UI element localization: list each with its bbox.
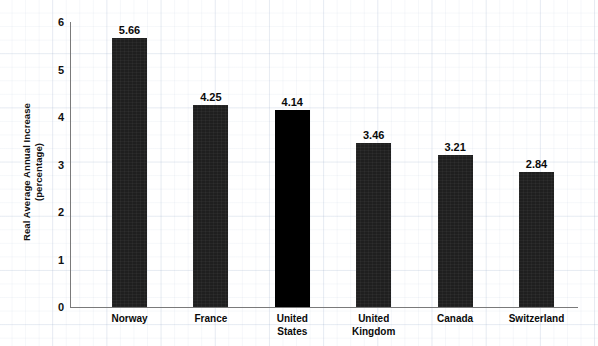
x-label-norway: Norway bbox=[85, 312, 175, 325]
bar-value-france: 4.25 bbox=[166, 91, 256, 103]
bar-value-united-states: 4.14 bbox=[247, 96, 337, 108]
bar-chart-plot-area: 6 5 4 3 2 1 0 Real Average Annual Increa… bbox=[0, 0, 598, 346]
bar-switzerland[interactable] bbox=[519, 172, 554, 307]
y-tick-1: 1 bbox=[46, 255, 64, 265]
bar-canada[interactable] bbox=[438, 155, 473, 307]
bar-france[interactable] bbox=[193, 105, 228, 307]
bar-value-switzerland: 2.84 bbox=[492, 158, 582, 170]
y-axis-line bbox=[70, 22, 71, 308]
y-tick-0: 0 bbox=[46, 302, 64, 312]
chart-page: 6 5 4 3 2 1 0 Real Average Annual Increa… bbox=[0, 0, 598, 346]
y-axis-title-line1: Real Average Annual Increase bbox=[21, 103, 32, 241]
y-axis-title: Real Average Annual Increase (percentage… bbox=[21, 62, 45, 282]
x-axis-line bbox=[70, 307, 578, 308]
x-label-line: Switzerland bbox=[509, 313, 565, 324]
y-axis-title-line2: (percentage) bbox=[33, 143, 44, 201]
x-label-line: United bbox=[358, 313, 389, 324]
x-label-line: Norway bbox=[111, 313, 147, 324]
x-label-canada: Canada bbox=[410, 312, 500, 325]
x-label-united-kingdom: United Kingdom bbox=[329, 312, 419, 338]
x-label-line: States bbox=[277, 326, 307, 337]
x-label-france: France bbox=[166, 312, 256, 325]
y-tick-5: 5 bbox=[46, 65, 64, 75]
bar-value-united-kingdom: 3.46 bbox=[329, 129, 419, 141]
y-tick-2: 2 bbox=[46, 207, 64, 217]
bar-value-canada: 3.21 bbox=[410, 141, 500, 153]
bar-united-states[interactable] bbox=[275, 110, 310, 307]
bar-value-norway: 5.66 bbox=[85, 24, 175, 36]
bar-norway[interactable] bbox=[112, 38, 147, 307]
y-tick-6: 6 bbox=[46, 17, 64, 27]
x-label-switzerland: Switzerland bbox=[492, 312, 582, 325]
x-label-line: Kingdom bbox=[352, 326, 395, 337]
x-label-line: Canada bbox=[437, 313, 473, 324]
bar-united-kingdom[interactable] bbox=[356, 143, 391, 307]
y-tick-3: 3 bbox=[46, 160, 64, 170]
x-label-united-states: United States bbox=[247, 312, 337, 338]
y-tick-4: 4 bbox=[46, 112, 64, 122]
x-label-line: United bbox=[277, 313, 308, 324]
x-label-line: France bbox=[194, 313, 227, 324]
